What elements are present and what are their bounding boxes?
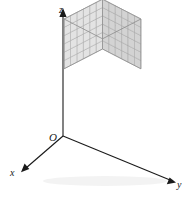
cube-stack	[64, 0, 141, 69]
figure-canvas: O z y x	[0, 0, 190, 198]
floor-shadow	[43, 176, 167, 186]
coordinate-system-figure: O z y x	[0, 0, 190, 198]
origin-label: O	[49, 131, 57, 143]
x-axis-label: x	[9, 167, 15, 178]
y-axis-label: y	[176, 179, 182, 190]
x-axis-arrowhead	[21, 164, 29, 173]
z-axis-label: z	[58, 4, 63, 15]
y-axis-arrowhead	[167, 177, 176, 184]
